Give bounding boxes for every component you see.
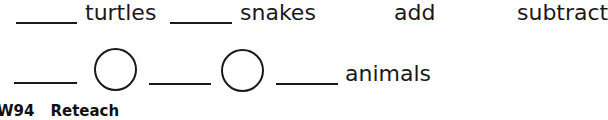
animals-label: animals	[345, 63, 431, 85]
first-number-blank[interactable]	[14, 82, 77, 84]
page-footer: W94Reteach	[0, 104, 119, 119]
operator-circle-2[interactable]	[221, 49, 264, 92]
page-code: W94	[0, 102, 34, 120]
operator-circle-1[interactable]	[94, 48, 137, 91]
section-title: Reteach	[50, 102, 119, 120]
turtles-label: turtles	[85, 2, 156, 24]
snakes-label: snakes	[240, 2, 316, 24]
snakes-answer-blank[interactable]	[170, 22, 232, 24]
subtract-choice[interactable]: subtract	[517, 2, 608, 24]
total-answer-blank[interactable]	[276, 83, 338, 85]
turtles-answer-blank[interactable]	[16, 22, 77, 24]
second-number-blank[interactable]	[149, 83, 211, 85]
add-choice[interactable]: add	[394, 2, 435, 24]
